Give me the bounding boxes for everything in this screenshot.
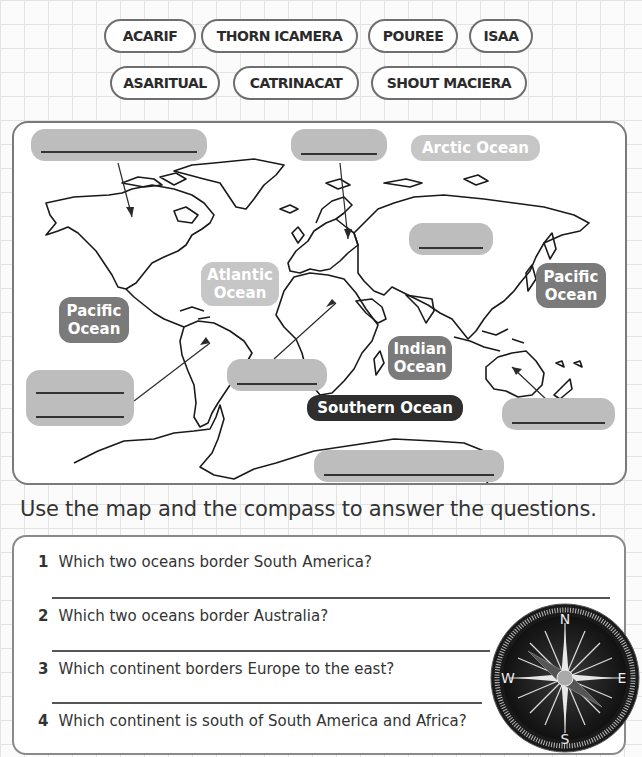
compass: N E S W: [490, 603, 640, 757]
answer-blank-antarctica[interactable]: [314, 450, 504, 482]
question-text: Which two oceans border South America?: [58, 553, 372, 571]
answer-blank-asia[interactable]: [409, 223, 493, 255]
compass-rose-icon: N E S W: [490, 603, 640, 753]
ocean-label-line: Ocean: [68, 320, 121, 338]
question-number: 1: [38, 553, 48, 571]
ocean-label-line: Atlantic: [207, 266, 273, 284]
ocean-label-line: Ocean: [214, 284, 267, 302]
ocean-label-line: Pacific: [544, 268, 599, 286]
answer-line-1[interactable]: [52, 597, 610, 599]
question-2: 2Which two oceans border Australia?: [38, 607, 328, 625]
ocean-label-indian: Indian Ocean: [388, 336, 452, 380]
word-chip: THORN ICAMERA: [201, 19, 358, 53]
question-text: Which continent borders Europe to the ea…: [58, 660, 394, 678]
question-number: 2: [38, 607, 48, 625]
ocean-label-southern: Southern Ocean: [307, 395, 463, 421]
question-4: 4Which continent is south of South Ameri…: [38, 712, 467, 730]
ocean-label-arctic: Arctic Ocean: [411, 135, 540, 161]
answer-blank-south-america[interactable]: [26, 370, 134, 426]
answer-line-3[interactable]: [52, 702, 482, 704]
question-text: Which continent is south of South Americ…: [58, 712, 466, 730]
answer-blank-africa[interactable]: [227, 359, 327, 391]
word-chip: CATRINACAT: [233, 66, 359, 100]
ocean-label-line: Ocean: [394, 358, 447, 376]
answer-blank-north-america[interactable]: [31, 129, 207, 161]
answer-line-2[interactable]: [52, 650, 490, 652]
ocean-label-atlantic: Atlantic Ocean: [201, 262, 279, 306]
question-number: 4: [38, 712, 48, 730]
compass-east-label: E: [618, 670, 627, 686]
word-chip: POUREE: [368, 19, 458, 53]
question-text: Which two oceans border Australia?: [58, 607, 328, 625]
word-chip: ASARITUAL: [110, 66, 220, 100]
ocean-label-pacific-west: Pacific Ocean: [59, 297, 129, 343]
instruction-text: Use the map and the compass to answer th…: [20, 497, 597, 521]
compass-north-label: N: [560, 611, 570, 627]
question-3: 3Which continent borders Europe to the e…: [38, 660, 394, 678]
word-chip: SHOUT MACIERA: [371, 66, 527, 100]
world-map: Arctic Ocean Atlantic Ocean Pacific Ocea…: [12, 121, 627, 485]
answer-blank-europe[interactable]: [291, 129, 387, 161]
word-chip: ISAA: [469, 19, 533, 53]
compass-west-label: W: [501, 670, 515, 686]
ocean-label-line: Pacific: [67, 302, 122, 320]
compass-south-label: S: [561, 731, 570, 747]
answer-blank-australia[interactable]: [502, 398, 615, 430]
question-1: 1Which two oceans border South America?: [38, 553, 372, 571]
ocean-label-line: Ocean: [545, 286, 598, 304]
word-chip: ACARIF: [104, 19, 196, 53]
question-number: 3: [38, 660, 48, 678]
ocean-label-pacific-east: Pacific Ocean: [536, 263, 606, 308]
ocean-label-line: Indian: [394, 340, 447, 358]
